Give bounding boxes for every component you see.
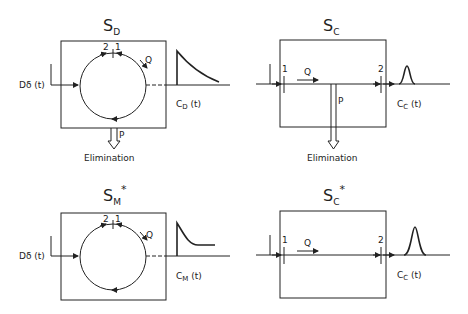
panel-title: SM* <box>103 183 127 207</box>
flow-label: Q <box>145 55 152 65</box>
marker-1: 1 <box>115 214 121 224</box>
input-label: Dδ (t) <box>19 251 45 261</box>
elimination-arrow <box>328 84 339 149</box>
marker-2: 2 <box>103 42 109 52</box>
decay-plateau-curve <box>177 223 215 256</box>
circulation-loop <box>80 224 146 290</box>
marker-2: 2 <box>378 64 384 74</box>
loop-arrow-top-right <box>117 224 122 225</box>
loop-arrow-top-right <box>117 53 122 54</box>
panel-title: SD <box>103 16 120 37</box>
compartment-diagram: SD Dδ (t) 2 1 Q CD (t) P Elimination SC … <box>0 0 468 314</box>
circulation-loop <box>80 53 146 119</box>
flow-label: Q <box>146 230 153 240</box>
panel-sc-star: SC* 1 Q 2 CC (t) <box>256 183 450 298</box>
output-label: CM (t) <box>176 271 202 283</box>
panel-title: SC* <box>323 183 345 207</box>
marker-2: 2 <box>103 214 109 224</box>
narrow-peak-curve <box>399 66 415 84</box>
input-label: Dδ (t) <box>19 80 45 90</box>
marker-1: 1 <box>115 42 121 52</box>
panel-sm-star: SM* Dδ (t) 2 1 Q CM (t) <box>19 183 230 300</box>
wide-peak-curve <box>404 227 426 255</box>
output-label: CC (t) <box>397 270 422 282</box>
elimination-label: Elimination <box>307 153 357 163</box>
output-label: CD (t) <box>176 99 201 111</box>
marker-2: 2 <box>378 235 384 245</box>
elimination-flow-label: P <box>119 130 125 140</box>
elimination-label: Elimination <box>84 153 134 163</box>
flow-label: Q <box>304 67 311 77</box>
output-label: CC (t) <box>397 99 422 111</box>
panel-title: SC <box>323 16 339 37</box>
panel-sc: SC 1 Q 2 CC (t) P Elimination <box>256 16 450 163</box>
marker-1: 1 <box>282 64 288 74</box>
marker-1: 1 <box>282 235 288 245</box>
panel-sd: SD Dδ (t) 2 1 Q CD (t) P Elimination <box>19 16 230 163</box>
decay-curve <box>177 51 219 85</box>
flow-label: Q <box>304 238 311 248</box>
elimination-flow-label: P <box>338 96 344 106</box>
